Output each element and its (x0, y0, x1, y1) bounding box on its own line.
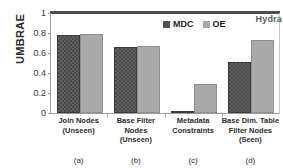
y-tick-label: 0.2 (4, 89, 50, 98)
x-axis-caption: (d) (216, 156, 283, 165)
bar-oe-a (80, 34, 103, 113)
hydra-watermark: Hydra (255, 14, 282, 24)
x-axis-label-line: Base Dim. Table (216, 116, 283, 126)
x-tick-mark (165, 113, 166, 117)
bar-group (55, 13, 105, 113)
bar-oe-d (251, 40, 274, 113)
x-axis-labels: Join Nodes(Unseen)(a)Base FilterNodes(Un… (50, 116, 280, 168)
bar-group (226, 13, 276, 113)
legend-swatch-mdc (163, 21, 170, 28)
bar-mdc-c (171, 111, 194, 113)
x-axis-label-line: Filter Nodes (216, 126, 283, 136)
bar-group (112, 13, 162, 113)
x-tick-mark (222, 113, 223, 117)
bar-mdc-a (57, 35, 80, 113)
x-axis-label-line: (Unseen) (101, 135, 170, 145)
y-tick-label: 0.8 (4, 29, 50, 38)
legend-swatch-oe (203, 21, 210, 28)
y-axis-ticks: 00.20.40.60.81 (0, 0, 50, 168)
legend-item-oe: OE (203, 19, 226, 29)
legend-label-mdc: MDC (173, 19, 194, 29)
x-tick-mark (107, 113, 108, 117)
chart-legend: MDC OE (163, 19, 226, 29)
y-tick-label: 0.6 (4, 49, 50, 58)
chart-figure: UMBRAE 00.20.40.60.81 MDC OE Hydra Join … (0, 0, 283, 168)
bar-mdc-b (114, 47, 137, 113)
x-axis-group-label: Base Dim. TableFilter Nodes(Seen) (216, 116, 283, 145)
x-axis-label-line: (Seen) (216, 135, 283, 145)
bar-mdc-d (228, 62, 251, 113)
y-tick-label: 1 (4, 9, 50, 18)
bar-oe-b (137, 46, 160, 113)
legend-label-oe: OE (213, 19, 226, 29)
bar-oe-c (194, 84, 217, 113)
y-tick-label: 0.4 (4, 69, 50, 78)
legend-item-mdc: MDC (163, 19, 194, 29)
